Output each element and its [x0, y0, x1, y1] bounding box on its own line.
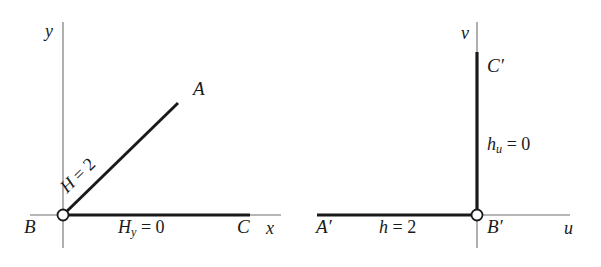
- point-label-Ap: A′: [316, 217, 332, 236]
- right-horizontal-annotation-h-equals-2: h = 2: [379, 218, 416, 236]
- right-horizontal-value: 2: [407, 217, 416, 237]
- origin-marker-Bp: [472, 210, 483, 221]
- vertical-annotation-hu-equals-0: hu = 0: [487, 135, 530, 156]
- left-diagram-group: [30, 22, 281, 248]
- left-x-axis-label: x: [266, 219, 274, 237]
- vertical-symbol: h: [487, 134, 496, 154]
- origin-marker-B: [58, 210, 69, 221]
- point-label-Bp: B′: [487, 217, 503, 236]
- figure-root: y A B C x H = 2 Hy = 0 v C′ B′ A′ u hu =…: [0, 0, 601, 267]
- point-label-A: A: [193, 79, 205, 98]
- point-label-Cp: C′: [487, 56, 504, 75]
- horizontal-value: 0: [156, 217, 165, 237]
- right-horizontal-symbol: h: [379, 217, 388, 237]
- point-label-C: C: [237, 217, 250, 236]
- left-y-axis-label: y: [45, 22, 53, 40]
- horizontal-annotation-Hy-equals-0: Hy = 0: [118, 218, 165, 239]
- right-diagram-group: [317, 22, 570, 248]
- point-label-B: B: [24, 217, 36, 236]
- right-v-axis-label: v: [461, 24, 469, 42]
- right-u-axis-label: u: [564, 219, 573, 237]
- horizontal-symbol: H: [118, 217, 131, 237]
- vertical-value: 0: [521, 134, 530, 154]
